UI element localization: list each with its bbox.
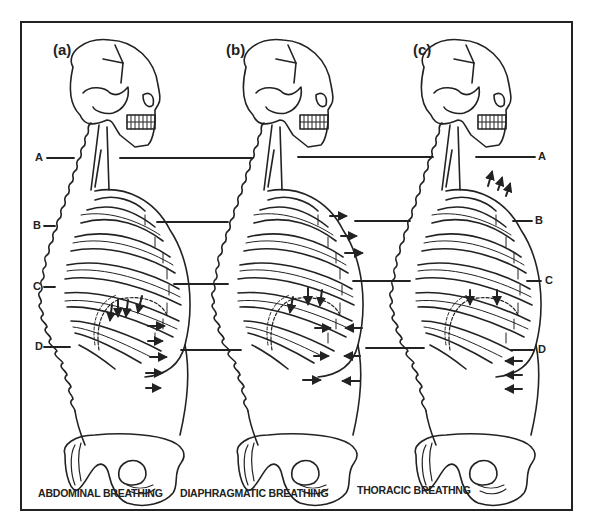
level-lines — [44, 157, 541, 350]
level-label-right-c: C — [545, 274, 553, 286]
level-label-left-d: D — [35, 340, 43, 352]
panel-label-c: (c) — [413, 41, 431, 58]
panel-label-b: (b) — [226, 41, 245, 58]
level-label-right-b: B — [535, 214, 543, 226]
skeleton-c — [390, 40, 541, 506]
level-label-left-a: A — [35, 151, 43, 163]
level-label-right-d: D — [538, 343, 546, 355]
skeleton-a — [39, 40, 190, 506]
skeleton-b — [212, 40, 363, 506]
caption-diaphragmatic-breathing: DIAPHRAGMATIC BREATHING — [180, 487, 328, 499]
panel-label-a: (a) — [53, 41, 71, 58]
level-label-right-a: A — [538, 150, 546, 162]
level-label-left-c: C — [33, 280, 41, 292]
caption-abdominal-breathing: ABDOMINAL BREATHING — [38, 487, 163, 499]
caption-thoracic-breathing: THORACIC BREATHNG — [357, 484, 471, 496]
level-label-left-b: B — [33, 219, 41, 231]
breathing-skeletons-illustration — [0, 0, 593, 532]
